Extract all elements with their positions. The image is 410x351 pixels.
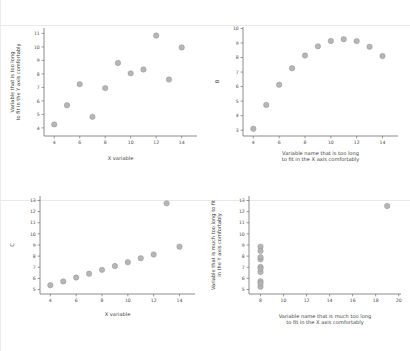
y-tick-label: 10	[34, 45, 40, 50]
y-tick-label: 5	[33, 287, 36, 292]
data-point-marker	[151, 252, 156, 257]
data-point-marker	[164, 201, 169, 206]
panel-c-svg: 4681012145678910111213X variableC	[0, 176, 205, 351]
y-tick-label: 9	[236, 41, 239, 46]
y-tick-label: 7	[242, 265, 245, 270]
data-point-marker	[128, 71, 133, 76]
y-tick-label: 13	[239, 198, 245, 203]
x-tick-label: 14	[327, 298, 333, 303]
y-tick-label: 9	[37, 58, 40, 63]
data-point-marker	[138, 256, 143, 261]
y-tick-label: 9	[33, 243, 36, 248]
data-point-marker	[166, 77, 171, 82]
x-tick-label: 8	[304, 140, 307, 145]
data-point-marker	[141, 67, 146, 72]
x-tick-label: 12	[153, 140, 159, 145]
x-tick-label: 12	[304, 298, 310, 303]
y-tick-label: 7	[236, 70, 239, 75]
y-axis-title: in the Y axis comfortably	[216, 213, 223, 276]
scatter-panel-c: 4681012145678910111213X variableC	[0, 176, 205, 351]
y-tick-label: 6	[33, 276, 36, 281]
data-point-marker	[154, 33, 159, 38]
x-tick-label: 14	[380, 140, 386, 145]
x-tick-label: 8	[259, 298, 262, 303]
y-tick-label: 3	[236, 128, 239, 133]
y-tick-label: 10	[239, 232, 245, 237]
x-tick-label: 4	[49, 298, 52, 303]
y-tick-label: 12	[239, 209, 245, 214]
y-tick-label: 8	[33, 254, 36, 259]
data-point-marker	[73, 275, 78, 280]
y-tick-label: 5	[236, 99, 239, 104]
x-tick-label: 14	[177, 298, 183, 303]
x-axis-title: X variable	[108, 155, 134, 161]
data-point-marker	[125, 259, 130, 264]
data-point-marker	[341, 37, 346, 42]
panel-a-svg: 4681012144567891011X variableVariable th…	[0, 0, 205, 175]
data-point-marker	[258, 248, 263, 253]
y-tick-label: 8	[236, 55, 239, 60]
data-point-marker	[258, 281, 263, 286]
y-tick-label: 11	[34, 31, 40, 36]
y-tick-label: 7	[33, 265, 36, 270]
data-point-marker	[61, 279, 66, 284]
anscombe-quartet-figure: 4681012144567891011X variableVariable th…	[0, 0, 410, 351]
y-tick-label: 4	[236, 113, 239, 118]
x-tick-label: 6	[278, 140, 281, 145]
data-point-marker	[179, 45, 184, 50]
x-axis-title: to fit in the X axis comfortably	[282, 156, 359, 163]
x-axis-title: X variable	[105, 311, 131, 317]
y-tick-label: 13	[30, 198, 36, 203]
data-point-marker	[48, 283, 53, 288]
y-tick-label: 5	[37, 112, 40, 117]
y-tick-label: 4	[37, 126, 40, 131]
data-point-marker	[90, 114, 95, 119]
x-tick-label: 12	[354, 140, 360, 145]
y-tick-label: 10	[30, 232, 36, 237]
y-tick-label: 8	[37, 72, 40, 77]
data-point-marker	[86, 271, 91, 276]
x-tick-label: 4	[252, 140, 255, 145]
data-point-marker	[384, 203, 389, 208]
data-point-marker	[64, 103, 69, 108]
y-tick-label: 6	[37, 99, 40, 104]
x-tick-label: 10	[125, 298, 131, 303]
y-tick-label: 7	[37, 85, 40, 90]
x-tick-label: 10	[328, 140, 334, 145]
data-point-marker	[99, 267, 104, 272]
data-point-marker	[77, 81, 82, 86]
x-tick-label: 10	[128, 140, 134, 145]
y-tick-label: 12	[30, 209, 36, 214]
y-tick-label: 6	[236, 84, 239, 89]
x-tick-label: 4	[53, 140, 56, 145]
y-axis-title: C	[9, 243, 15, 247]
x-tick-label: 16	[350, 298, 356, 303]
y-axis-title: B	[214, 79, 220, 83]
panel-d-svg: 81012141618205678910111213Variable name …	[205, 176, 410, 351]
x-tick-label: 10	[281, 298, 287, 303]
x-tick-label: 6	[75, 298, 78, 303]
y-tick-label: 8	[242, 254, 245, 259]
y-tick-label: 11	[30, 220, 36, 225]
data-point-marker	[380, 53, 385, 58]
data-point-marker	[103, 85, 108, 90]
y-tick-label: 10	[233, 26, 239, 31]
x-tick-label: 6	[78, 140, 81, 145]
x-tick-label: 18	[373, 298, 379, 303]
y-tick-label: 5	[242, 287, 245, 292]
data-point-marker	[251, 126, 256, 131]
data-point-marker	[258, 266, 263, 271]
data-point-marker	[302, 53, 307, 58]
data-point-marker	[264, 102, 269, 107]
scatter-panel-d: 81012141618205678910111213Variable name …	[205, 176, 410, 351]
data-point-marker	[177, 244, 182, 249]
data-point-marker	[354, 38, 359, 43]
x-tick-label: 8	[104, 140, 107, 145]
data-point-marker	[367, 44, 372, 49]
scatter-panel-a: 4681012144567891011X variableVariable th…	[0, 0, 205, 175]
data-point-marker	[258, 254, 263, 259]
y-tick-label: 9	[242, 243, 245, 248]
data-point-marker	[115, 60, 120, 65]
scatter-panel-b: 468101214345678910Variable name that is …	[205, 0, 410, 175]
data-point-marker	[276, 82, 281, 87]
